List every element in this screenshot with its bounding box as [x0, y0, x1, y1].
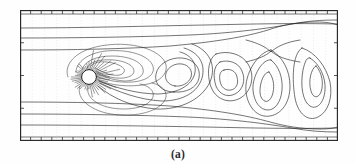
- figure-caption-row: (a): [0, 143, 356, 164]
- contour-plot-svg: [20, 10, 338, 141]
- figure-caption: (a): [171, 148, 185, 160]
- figure-root: (a): [0, 0, 356, 164]
- contour-plot-area: [20, 10, 338, 141]
- cylinder-shape: [82, 70, 97, 85]
